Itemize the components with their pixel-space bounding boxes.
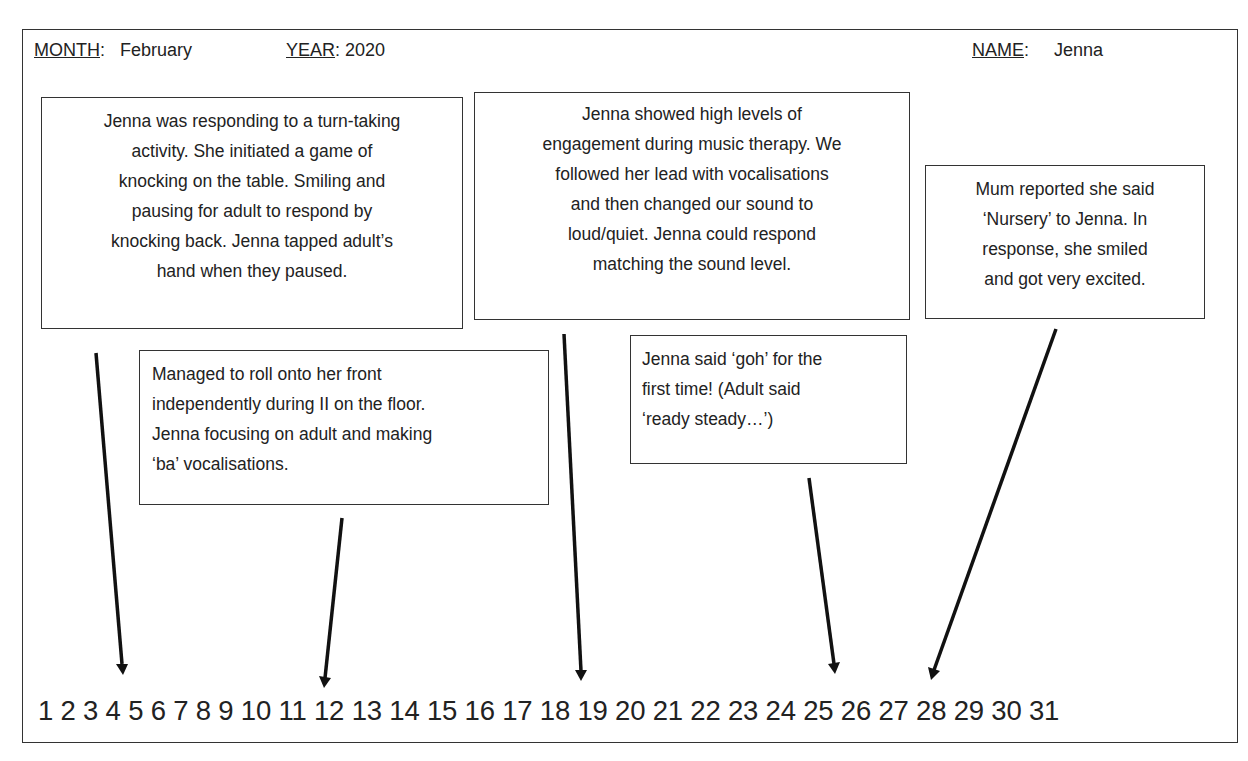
arrowhead-icon	[319, 676, 331, 688]
arrows-layer	[0, 0, 1248, 761]
day-number-line: 1 2 3 4 5 6 7 8 9 10 11 12 13 14 15 16 1…	[38, 695, 1059, 727]
arrowhead-icon	[828, 662, 840, 674]
arrow-to-day-23	[809, 478, 834, 664]
arrow-to-day-25	[934, 329, 1056, 670]
arrow-to-day-4	[96, 353, 122, 664]
arrowhead-icon	[575, 670, 587, 681]
arrowhead-icon	[116, 664, 128, 675]
arrow-to-day-17	[564, 334, 581, 671]
arrow-to-day-11	[325, 518, 342, 678]
